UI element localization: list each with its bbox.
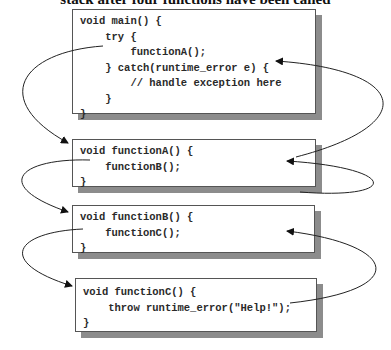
code-line: } bbox=[80, 108, 86, 120]
code-line: } catch(runtime_error e) { bbox=[80, 62, 269, 74]
diagram-heading: stack after four functions have been cal… bbox=[0, 0, 391, 8]
code-line: void functionC() { bbox=[83, 286, 196, 298]
code-line: } bbox=[80, 176, 86, 188]
code-line: void functionB() { bbox=[80, 211, 193, 223]
function-b-box: void functionB() { functionC(); } bbox=[72, 205, 315, 253]
code-line: throw runtime_error("Help!"); bbox=[83, 302, 291, 314]
main-code: void main() { try { functionA(); } catch… bbox=[80, 14, 282, 123]
function-c-code: void functionC() { throw runtime_error("… bbox=[83, 285, 291, 332]
main-function-box: void main() { try { functionA(); } catch… bbox=[72, 9, 316, 114]
function-c-box: void functionC() { throw runtime_error("… bbox=[75, 278, 317, 332]
code-line: void main() { bbox=[80, 15, 162, 27]
code-line: try { bbox=[80, 31, 137, 43]
function-a-code: void functionA() { functionB(); } bbox=[80, 144, 193, 191]
code-line: functionA(); bbox=[80, 46, 206, 58]
function-a-box: void functionA() { functionB(); } bbox=[72, 139, 316, 187]
code-line: } bbox=[80, 93, 112, 105]
code-line: functionC(); bbox=[80, 227, 181, 239]
code-line: functionB(); bbox=[80, 161, 181, 173]
code-line: } bbox=[83, 317, 89, 329]
function-b-code: void functionB() { functionC(); } bbox=[80, 210, 193, 257]
code-line: } bbox=[80, 242, 86, 254]
code-line: void functionA() { bbox=[80, 145, 193, 157]
code-line: // handle exception here bbox=[80, 77, 282, 89]
